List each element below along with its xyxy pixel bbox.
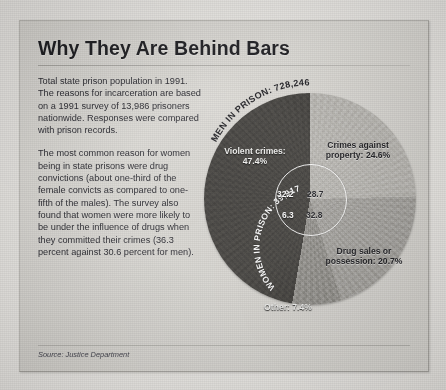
slice-label-violent-crimes-text: Violent crimes: (224, 146, 285, 156)
inner-value-drugs: 32.8 (306, 210, 322, 220)
slice-value-drug-sales: 20.7% (378, 256, 402, 266)
pie-chart: MEN IN PRISON: 728,246 WOMEN IN P (198, 68, 420, 336)
slice-value-other: 7.4% (292, 302, 312, 312)
slice-value-crimes-against-property: 24.6% (366, 150, 390, 160)
pie-wrap: WOMEN IN PRISON: 39,917 32.2 28.7 6.3 32… (204, 93, 416, 305)
intro-paragraph-2: The most common reason for women being i… (38, 147, 201, 258)
page-title: Why They Are Behind Bars (38, 37, 290, 60)
inner-ring-women (275, 164, 347, 236)
scanned-page: Why They Are Behind Bars Total state pri… (0, 0, 446, 390)
slice-value-violent-crimes: 47.4% (243, 156, 267, 166)
inner-value-violent: 32.2 (277, 189, 293, 199)
inner-value-other: 6.3 (282, 210, 294, 220)
slice-label-crimes-against-property: Crimes against property: 24.6% (312, 140, 404, 161)
inner-value-property: 28.7 (307, 189, 323, 199)
infographic-card: Why They Are Behind Bars Total state pri… (19, 20, 429, 372)
slice-label-drug-sales: Drug sales or possession: 20.7% (316, 246, 412, 267)
slice-label-other: Other: 7.4% (260, 302, 316, 312)
source-note: Source: Justice Department (38, 350, 129, 359)
slice-label-other-text: Other: (264, 302, 290, 312)
source-divider (38, 345, 410, 346)
title-divider (38, 65, 410, 66)
slice-label-violent-crimes: Violent crimes: 47.4% (212, 146, 298, 167)
intro-text: Total state prison population in 1991. T… (38, 75, 201, 269)
intro-paragraph-1: Total state prison population in 1991. T… (38, 75, 201, 136)
